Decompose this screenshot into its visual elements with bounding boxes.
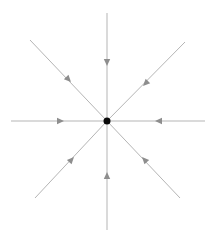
arrowhead-ray-left: [57, 118, 64, 124]
arrowhead-ray-down-right: [142, 157, 149, 164]
phase-portrait-canvas: [0, 0, 215, 244]
phase-portrait-figure: [0, 0, 215, 244]
equilibrium-point: [104, 118, 111, 125]
arrowhead-ray-right: [155, 118, 162, 124]
arrowhead-ray-down: [104, 172, 110, 179]
arrowhead-ray-up-right: [143, 79, 150, 86]
arrowhead-ray-up-left: [64, 75, 71, 82]
arrowhead-ray-up: [104, 59, 110, 66]
